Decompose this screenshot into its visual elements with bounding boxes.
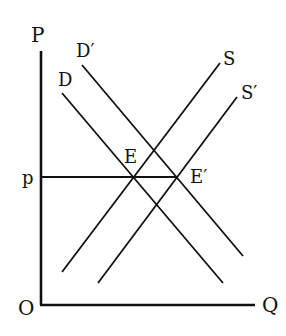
demand-label-d-prime: D′ [76,40,95,61]
supply-label-s: S [223,48,235,69]
quantity-axis-label: Q [262,293,278,317]
equilibrium-label-e: E [124,146,137,167]
demand-curve-d-prime [82,65,243,256]
supply-curve-s-prime [98,97,237,283]
origin-label: O [18,296,34,320]
demand-label-d: D [58,69,72,90]
equilibrium-label-e-prime: E′ [190,166,207,187]
price-level-label: p [22,167,34,188]
price-axis-label: P [31,23,44,47]
supply-demand-diagram: P Q O p D D′ S S′ E E′ [0,0,286,336]
supply-label-s-prime: S′ [241,82,257,103]
demand-curve-d [62,93,223,283]
